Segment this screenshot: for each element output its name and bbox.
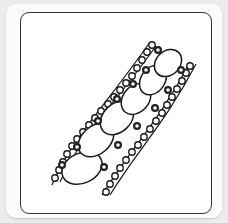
band-illustration [0,0,228,223]
